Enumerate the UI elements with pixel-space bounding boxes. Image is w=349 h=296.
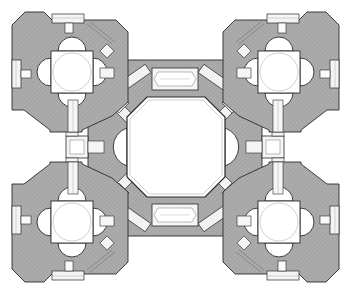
central-octagon <box>127 97 225 197</box>
tower-bottom-left <box>12 162 128 282</box>
tower-top-left <box>12 12 128 132</box>
tower-top-right <box>223 12 339 132</box>
floor-plan <box>0 0 349 296</box>
tower-bottom-right <box>223 162 339 282</box>
